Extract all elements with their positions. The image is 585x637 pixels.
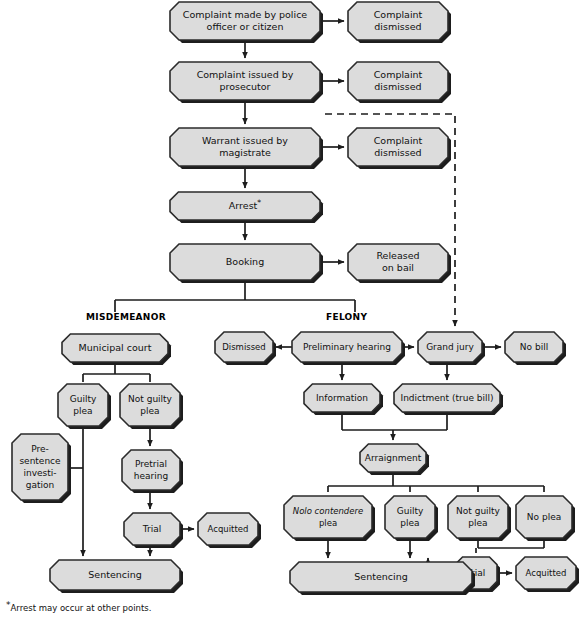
- flowchart-container: Complaint made by policeofficer or citiz…: [0, 0, 585, 637]
- node-no-bill[interactable]: No bill: [505, 332, 566, 365]
- node-no-plea[interactable]: No plea: [516, 496, 575, 541]
- node-nolo-contendere-plea[interactable]: Nolo contendereplea: [284, 496, 375, 541]
- node-complaint-dismissed-2[interactable]: Complaintdismissed: [348, 62, 451, 103]
- node-guilty-plea-misd[interactable]: Guiltyplea: [58, 384, 111, 429]
- node-sentencing-misd[interactable]: Sentencing: [50, 560, 183, 593]
- node-label: Municipal court: [79, 342, 152, 353]
- node-preliminary-hearing[interactable]: Preliminary hearing: [292, 332, 405, 365]
- node-label: Booking: [226, 256, 264, 267]
- node-complaint-dismissed-3[interactable]: Complaintdismissed: [348, 128, 451, 169]
- node-label: Releasedon bail: [376, 249, 419, 273]
- node-label: Arraignment: [365, 453, 422, 463]
- node-label: Information: [316, 393, 368, 403]
- node-information[interactable]: Information: [304, 384, 383, 415]
- footnote: *Arrest may occur at other points.: [6, 600, 151, 613]
- node-complaint-dismissed-1[interactable]: Complaintdismissed: [348, 2, 451, 43]
- node-not-guilty-plea-misd[interactable]: Not guiltyplea: [120, 384, 183, 429]
- node-label: Indictment (true bill): [400, 393, 493, 403]
- node-label: No plea: [527, 512, 561, 522]
- flowchart-canvas: Complaint made by policeofficer or citiz…: [0, 0, 585, 637]
- node-dismissed[interactable]: Dismissed: [215, 332, 276, 365]
- node-layer: Complaint made by policeofficer or citiz…: [12, 2, 579, 595]
- node-released-on-bail[interactable]: Releasedon bail: [348, 244, 451, 283]
- node-label: Sentencing: [354, 571, 407, 582]
- node-complaint-made[interactable]: Complaint made by policeofficer or citiz…: [170, 2, 323, 43]
- node-acquitted-felony[interactable]: Acquitted: [516, 557, 579, 592]
- node-label: No bill: [520, 342, 548, 352]
- node-sentencing-felony[interactable]: Sentencing: [290, 562, 475, 595]
- branch-label-misdemeanor: MISDEMEANOR: [86, 312, 166, 322]
- node-trial-misd[interactable]: Trial: [124, 513, 183, 548]
- node-arrest[interactable]: Arrest*: [170, 192, 323, 223]
- node-arraignment[interactable]: Arraignment: [360, 444, 429, 475]
- node-label: Trial: [142, 524, 161, 534]
- node-grand-jury[interactable]: Grand jury: [418, 332, 485, 365]
- node-label: Sentencing: [88, 569, 141, 580]
- node-label: Complaintdismissed: [374, 68, 423, 92]
- node-warrant-issued[interactable]: Warrant issued bymagistrate: [170, 128, 323, 169]
- node-label: Acquitted: [208, 524, 249, 534]
- node-acquitted-misd[interactable]: Acquitted: [198, 513, 261, 548]
- node-label: Preliminary hearing: [303, 342, 391, 352]
- node-label: Complaintdismissed: [374, 134, 423, 158]
- node-label: Complaintdismissed: [374, 8, 423, 32]
- node-label: Acquitted: [526, 568, 567, 578]
- node-complaint-issued[interactable]: Complaint issued byprosecutor: [170, 62, 323, 103]
- node-label: Dismissed: [222, 342, 265, 352]
- node-booking[interactable]: Booking: [170, 244, 323, 283]
- branch-label-felony: FELONY: [326, 312, 367, 322]
- footnote-text: Arrest may occur at other points.: [11, 603, 152, 613]
- node-label: Arrest*: [229, 198, 261, 211]
- node-not-guilty-plea-felony[interactable]: Not guiltyplea: [448, 496, 511, 541]
- node-pretrial-hearing[interactable]: Pretrialhearing: [122, 450, 183, 493]
- node-indictment[interactable]: Indictment (true bill): [394, 384, 503, 415]
- node-municipal-court[interactable]: Municipal court: [62, 334, 171, 365]
- node-presentence-investigation[interactable]: Pre-sentenceinvesti-gation: [12, 434, 71, 503]
- node-guilty-plea-felony[interactable]: Guiltyplea: [385, 496, 438, 541]
- node-label: Grand jury: [426, 342, 474, 352]
- branch-label-layer: MISDEMEANORFELONY: [86, 312, 367, 322]
